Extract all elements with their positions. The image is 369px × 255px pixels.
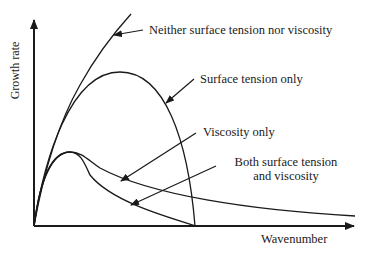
curve-both: [34, 152, 196, 226]
diagram-canvas: [0, 0, 369, 255]
curve-neither: [34, 14, 131, 226]
label-viscosity-only: Viscosity only: [203, 125, 275, 139]
label-both-line1: Both surface tension: [222, 155, 350, 169]
label-surface-only: Surface tension only: [200, 72, 303, 86]
pointer-neither: [114, 30, 143, 35]
x-axis-label: Wavenumber: [261, 232, 327, 246]
pointer-surface-only: [166, 79, 194, 103]
label-both-line2: and viscosity: [222, 169, 350, 183]
label-neither: Neither surface tension nor viscosity: [149, 23, 332, 37]
y-axis-label: Growth rate: [8, 39, 23, 103]
label-both: Both surface tension and viscosity: [222, 155, 350, 183]
growth-rate-diagram: Neither surface tension nor viscosity Su…: [0, 0, 369, 255]
